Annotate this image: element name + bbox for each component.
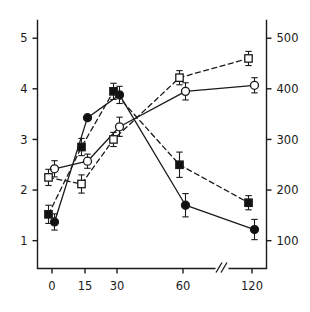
series-line (49, 58, 249, 184)
x-axis-tick-label: 120 (241, 279, 263, 293)
data-point-filled-circle[interactable] (84, 114, 92, 122)
data-point-open-circle[interactable] (182, 87, 190, 95)
x-axis-break-marker (216, 263, 229, 273)
data-point-open-circle[interactable] (84, 157, 92, 165)
left-axis-tick-label: 2 (20, 183, 27, 197)
right-axis-tick-label: 100 (277, 234, 299, 248)
data-point-filled-circle[interactable] (182, 201, 190, 209)
right-axis-tick-label: 500 (277, 31, 299, 45)
series-line (49, 91, 249, 214)
data-point-filled-square[interactable] (110, 88, 117, 95)
data-point-open-circle[interactable] (116, 123, 124, 131)
data-point-open-circle[interactable] (251, 81, 259, 89)
x-axis-tick-label: 15 (78, 279, 93, 293)
right-axis-tick-label: 400 (277, 82, 299, 96)
data-point-open-square[interactable] (176, 74, 183, 81)
x-axis-tick-label: 60 (176, 279, 191, 293)
chart-figure: 123451002003004005000153060120 (0, 0, 310, 312)
series-open-square-dashed (45, 51, 252, 193)
data-point-filled-square[interactable] (245, 199, 252, 206)
left-axis-tick-label: 3 (20, 133, 27, 147)
data-point-filled-square[interactable] (78, 143, 85, 150)
plot-frame (38, 21, 267, 269)
x-axis-tick-label: 30 (110, 279, 125, 293)
left-axis-tick-label: 4 (20, 82, 27, 96)
series-open-circle-solid (51, 78, 259, 177)
data-point-filled-circle[interactable] (51, 218, 59, 226)
data-point-open-square[interactable] (45, 174, 52, 181)
data-point-open-square[interactable] (110, 136, 117, 143)
data-point-filled-circle[interactable] (251, 226, 259, 234)
right-axis-tick-label: 300 (277, 133, 299, 147)
left-axis-tick-label: 1 (20, 234, 27, 248)
right-axis-tick-label: 200 (277, 183, 299, 197)
data-point-open-square[interactable] (78, 180, 85, 187)
data-point-filled-square[interactable] (176, 161, 183, 168)
line-chart: 123451002003004005000153060120 (0, 0, 310, 312)
x-axis-tick-label: 0 (48, 279, 55, 293)
data-point-filled-square[interactable] (45, 211, 52, 218)
left-axis-tick-label: 5 (20, 31, 27, 45)
data-point-open-square[interactable] (245, 55, 252, 62)
